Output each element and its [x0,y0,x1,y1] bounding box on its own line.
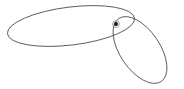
marker-dot [114,22,118,26]
figure-canvas: Diagram of two intersecting ellipses wit… [0,0,184,89]
ellipses-diagram-svg [0,0,184,89]
